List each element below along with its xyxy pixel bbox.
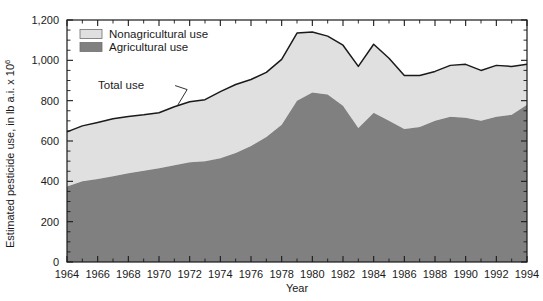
svg-text:Estimated pesticide use, in lb: Estimated pesticide use, in lb a.i. x 10…	[3, 60, 16, 248]
x-tick-label: 1994	[515, 268, 539, 280]
legend-swatch-nonagricultural	[80, 30, 102, 39]
x-tick-label: 1970	[147, 268, 171, 280]
x-tick-label: 1966	[85, 268, 109, 280]
x-tick-label: 1990	[453, 268, 477, 280]
x-tick-label: 1974	[208, 268, 232, 280]
y-axis-title-exponent: 6	[3, 60, 12, 64]
legend-label-agricultural: Agricultural use	[109, 41, 188, 53]
x-axis-tick-labels: 1964196619681970197219741976197819801982…	[55, 268, 539, 280]
x-tick-label: 1964	[55, 268, 79, 280]
x-tick-label: 1984	[361, 268, 385, 280]
legend-label-nonagricultural: Nonagricultural use	[109, 28, 208, 40]
y-tick-label: 800	[41, 95, 59, 107]
y-tick-label: 400	[41, 175, 59, 187]
x-tick-label: 1976	[239, 268, 263, 280]
y-tick-label: 1,000	[31, 54, 59, 66]
x-axis-title: Year	[286, 282, 309, 294]
y-tick-label: 200	[41, 216, 59, 228]
x-tick-label: 1982	[331, 268, 355, 280]
y-axis-title: Estimated pesticide use, in lb a.i. x 10…	[3, 60, 16, 248]
chart-canvas: 02004006008001,0001,200 1964196619681970…	[0, 0, 543, 301]
x-tick-label: 1988	[423, 268, 447, 280]
y-tick-label: 0	[53, 256, 59, 268]
total-use-annotation-label: Total use	[98, 79, 144, 91]
y-tick-label: 600	[41, 135, 59, 147]
y-axis-tick-labels: 02004006008001,0001,200	[31, 14, 59, 268]
y-axis-title-text: Estimated pesticide use, in lb a.i. x 10	[4, 64, 16, 248]
legend-swatch-agricultural	[80, 43, 102, 52]
x-tick-label: 1980	[300, 268, 324, 280]
x-tick-label: 1972	[177, 268, 201, 280]
x-tick-label: 1986	[392, 268, 416, 280]
y-tick-label: 1,200	[31, 14, 59, 26]
pesticide-use-area-chart: 02004006008001,0001,200 1964196619681970…	[0, 0, 543, 301]
x-tick-label: 1978	[269, 268, 293, 280]
x-tick-label: 1968	[116, 268, 140, 280]
x-tick-label: 1992	[484, 268, 508, 280]
